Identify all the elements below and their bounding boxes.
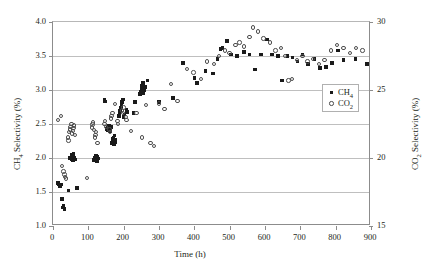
x-axis-tick-label: 200 [116,232,129,242]
plot-area [52,21,370,225]
data-point-ch4 [113,141,117,145]
chart-legend: CH4 CO2 [322,84,359,112]
data-point-co2 [335,43,339,47]
data-point-co2 [242,44,246,48]
y-axis-right-title-text-2: Selectivity (%) [410,98,420,154]
x-axis-tick-label: 800 [328,232,341,242]
legend-label-ch4: CH4 [338,87,353,99]
data-point-co2 [72,123,76,127]
data-point-co2 [223,48,227,52]
y-axis-right-tick [369,158,373,159]
data-point-ch4 [225,39,229,43]
data-point-co2 [305,59,309,63]
x-axis-tick-label: 400 [187,232,200,242]
y-axis-left-tick [49,90,53,91]
y-axis-left-tick-label: 3.0 [24,84,46,94]
y-axis-right-title-sub: 2 [415,154,422,157]
data-point-co2 [329,48,333,52]
data-point-ch4 [59,183,63,187]
data-point-co2 [279,46,283,50]
y-axis-left-tick-label: 4.0 [24,16,46,26]
data-point-ch4 [235,54,239,58]
y-axis-left-tick-label: 2.0 [24,152,46,162]
data-point-ch4 [259,53,263,57]
data-point-co2 [85,176,89,180]
data-point-co2 [341,46,345,50]
data-point-ch4 [96,157,100,161]
data-point-ch4 [280,79,284,83]
y-axis-left-tick-label: 1.0 [24,220,46,230]
data-point-co2 [64,176,68,180]
data-point-co2 [261,36,265,40]
x-axis-tick [88,226,89,230]
data-point-ch4 [324,65,328,69]
data-point-co2 [66,135,70,139]
data-point-co2 [348,51,352,55]
data-point-co2 [273,48,277,52]
data-point-co2 [59,114,63,118]
data-point-co2 [110,111,114,115]
data-point-co2 [212,62,216,66]
data-point-co2 [290,77,294,81]
data-point-ch4 [211,72,215,76]
data-point-co2 [191,70,195,74]
data-point-co2 [121,105,125,109]
data-point-co2 [157,101,161,105]
y-axis-right-title: CO2 Selectivity (%) [410,98,422,170]
y-axis-left-tick [49,124,53,125]
data-point-co2 [152,144,156,148]
data-point-co2 [360,48,364,52]
y-axis-left-title-text: CH [12,157,22,170]
x-axis-tick [371,226,372,230]
data-point-ch4 [291,56,295,60]
data-point-co2 [103,119,107,123]
y-axis-left-title-text-2: Selectivity (%) [12,98,22,154]
data-point-co2 [237,40,241,44]
data-point-ch4 [318,66,322,70]
x-axis-tick-label: 100 [81,232,94,242]
legend-entry-ch4: CH4 [327,87,353,98]
data-point-ch4 [253,68,257,72]
data-point-co2 [169,82,173,86]
x-axis-title: Time (h) [174,249,205,259]
data-point-co2 [162,107,166,111]
x-axis-tick-label: 600 [258,232,271,242]
data-point-co2 [175,99,179,103]
data-point-co2 [116,122,120,126]
x-axis-tick [265,226,266,230]
y-axis-left-tick [49,158,53,159]
data-point-ch4 [195,81,199,85]
y-axis-right-tick-label: 30 [377,16,386,26]
y-axis-left-tick [49,192,53,193]
y-axis-left-tick [49,56,53,57]
y-axis-left-tick [49,22,53,23]
x-axis-tick-label: 300 [152,232,165,242]
data-point-ch4 [143,85,147,89]
y-axis-right-tick [369,90,373,91]
y-axis-left-title-sub: 4 [17,154,24,157]
data-point-co2 [199,77,203,81]
data-point-ch4 [60,197,64,201]
open-circle-icon [327,101,336,105]
legend-entry-co2: CO2 [327,98,353,109]
data-point-co2 [354,46,358,50]
x-axis-tick-label: 500 [222,232,235,242]
data-point-co2 [140,135,144,139]
data-point-ch4 [121,98,125,102]
data-point-co2 [60,164,64,168]
x-axis-tick-label: 700 [293,232,306,242]
x-axis-tick-label: 900 [364,232,377,242]
legend-label-co2-text: CO [338,98,350,108]
data-point-co2 [134,111,138,115]
y-axis-left-tick-label: 3.5 [24,50,46,60]
data-point-ch4 [181,61,185,65]
data-point-co2 [129,129,133,133]
data-point-co2 [300,54,304,58]
data-point-co2 [144,103,148,107]
y-axis-right-title-text: CO [410,157,420,170]
data-point-ch4 [103,100,107,104]
y-axis-right-tick-label: 25 [377,84,386,94]
data-point-ch4 [75,186,79,190]
x-axis-tick [300,226,301,230]
